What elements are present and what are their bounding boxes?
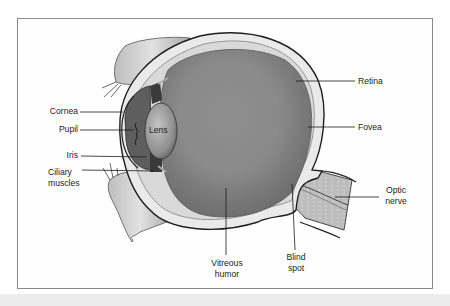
label-pupil: Pupil bbox=[40, 124, 78, 135]
label-fovea: Fovea bbox=[358, 122, 382, 133]
vitreous-body bbox=[160, 49, 311, 217]
label-vitreous-line2: humor bbox=[200, 269, 254, 280]
label-optic-nerve: Optic nerve bbox=[378, 185, 414, 207]
label-lens: Lens bbox=[149, 125, 168, 136]
label-ciliary-line2: muscles bbox=[48, 178, 80, 189]
label-blind-line2: spot bbox=[278, 263, 314, 274]
label-cornea: Cornea bbox=[40, 106, 78, 117]
label-blind-spot: Blind spot bbox=[278, 252, 314, 274]
label-ciliary-line1: Ciliary bbox=[48, 167, 80, 178]
label-iris: Iris bbox=[40, 150, 78, 161]
label-optic-line2: nerve bbox=[378, 196, 414, 207]
label-retina: Retina bbox=[358, 76, 383, 87]
label-vitreous-humor: Vitreous humor bbox=[200, 258, 254, 280]
label-vitreous-line1: Vitreous bbox=[200, 258, 254, 269]
label-optic-line1: Optic bbox=[378, 185, 414, 196]
label-ciliary-muscles: Ciliary muscles bbox=[48, 167, 80, 189]
label-blind-line1: Blind bbox=[278, 252, 314, 263]
